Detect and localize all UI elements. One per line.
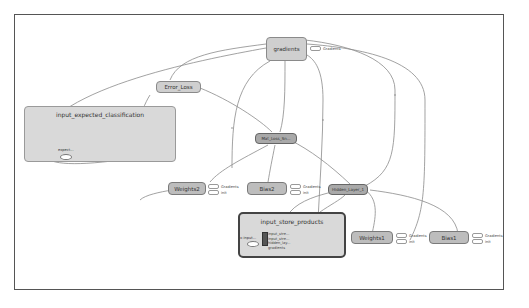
bias2-annotations: Gradients init bbox=[290, 184, 321, 195]
node-label: Weights1 bbox=[359, 235, 385, 241]
group-title: input_store_products bbox=[240, 218, 344, 225]
node-bias1[interactable]: Bias1 bbox=[429, 231, 469, 244]
node-weights2[interactable]: Weights2 bbox=[168, 182, 206, 195]
gradients-annotations: Gradients bbox=[310, 46, 341, 51]
node-gradients[interactable]: gradients bbox=[266, 37, 307, 61]
expected-node-label: expect... bbox=[58, 148, 74, 152]
store-input-node[interactable] bbox=[247, 241, 259, 247]
store-input-label: x-input... bbox=[240, 236, 256, 240]
group-title: input_expected_classification bbox=[25, 111, 175, 118]
node-hidden-layer[interactable]: Hidden_Layer_1 bbox=[328, 184, 368, 195]
node-label: Mat_Loss_Sn... bbox=[261, 136, 290, 141]
node-mat-loss[interactable]: Mat_Loss_Sn... bbox=[255, 133, 297, 144]
node-error-loss[interactable]: Error_Loss bbox=[156, 81, 201, 93]
group-input-store-products[interactable]: input_store_products bbox=[238, 212, 346, 258]
node-bias2[interactable]: Bias2 bbox=[247, 182, 287, 195]
node-label: Weights2 bbox=[174, 186, 200, 192]
expected-node[interactable] bbox=[60, 154, 72, 160]
node-label: Bias2 bbox=[259, 186, 274, 192]
store-outputs: input_stre... input_stre... hidden_lay..… bbox=[268, 232, 290, 250]
node-label: Error_Loss bbox=[164, 84, 192, 90]
bias1-annotations: Gradients init bbox=[472, 233, 503, 244]
group-input-expected-classification[interactable]: input_expected_classification bbox=[24, 106, 176, 162]
node-weights1[interactable]: Weights1 bbox=[351, 231, 393, 244]
weights1-annotations: Gradients init bbox=[396, 233, 427, 244]
node-label: gradients bbox=[273, 46, 299, 52]
weights2-annotations: Gradients init bbox=[208, 184, 239, 195]
node-label: Bias1 bbox=[441, 235, 456, 241]
node-label: Hidden_Layer_1 bbox=[332, 187, 364, 192]
